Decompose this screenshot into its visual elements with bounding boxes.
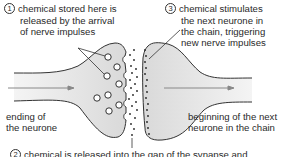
label-step-2: 2chemical is released into the gap of th…: [10, 149, 247, 157]
label-step-3: 3chemical stimulates the next neurone in…: [165, 3, 266, 48]
label-right-neurone: beginning of the next neurone in the cha…: [188, 111, 277, 133]
step-number-2: 2: [10, 149, 21, 157]
step-number-3: 3: [165, 3, 176, 14]
step-number-1: 1: [4, 3, 15, 14]
label-left-neurone: ending of the neurone: [6, 111, 57, 133]
label-step-1: 1chemical stored here is released by the…: [4, 3, 117, 37]
